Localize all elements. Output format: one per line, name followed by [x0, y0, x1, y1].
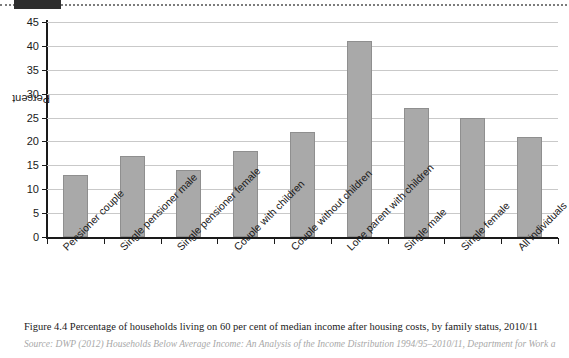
gridline — [47, 22, 558, 23]
x-tick-mark — [274, 238, 275, 244]
x-tick-mark — [47, 238, 48, 244]
y-tick-mark — [42, 70, 47, 71]
figure-caption: Figure 4.4 Percentage of households livi… — [24, 320, 559, 333]
x-tick-mark — [388, 238, 389, 244]
gridline — [47, 46, 558, 47]
redaction-block — [14, 0, 61, 9]
y-tick-mark — [42, 141, 47, 142]
bar — [347, 41, 372, 237]
y-tick-mark — [42, 22, 47, 23]
x-tick-mark — [444, 238, 445, 244]
figure-source: Source: DWP (2012) Households Below Aver… — [24, 338, 559, 350]
x-tick-mark — [331, 238, 332, 244]
page-top-rule — [0, 4, 567, 6]
y-tick-mark — [42, 165, 47, 166]
y-tick-label: 25 — [27, 112, 39, 123]
y-tick-mark — [42, 118, 47, 119]
x-tick-mark — [104, 238, 105, 244]
y-tick-mark — [42, 46, 47, 47]
y-tick-mark — [42, 189, 47, 190]
bar — [460, 118, 485, 237]
y-tick-label: 45 — [27, 17, 39, 28]
y-tick-label: 15 — [27, 160, 39, 171]
y-tick-mark — [42, 213, 47, 214]
x-axis-labels: Pensioner coupleSingle pensioner maleSin… — [0, 245, 567, 315]
gridline — [47, 70, 558, 71]
x-tick-mark — [161, 238, 162, 244]
y-tick-mark — [42, 94, 47, 95]
y-tick-label: 5 — [33, 208, 39, 219]
y-tick-label: 35 — [27, 64, 39, 75]
x-tick-mark — [558, 238, 559, 244]
y-tick-label: 10 — [27, 184, 39, 195]
bar-chart: Percent 051015202530354045 — [0, 10, 567, 245]
x-tick-mark — [217, 238, 218, 244]
y-tick-label: 20 — [27, 136, 39, 147]
x-tick-mark — [501, 238, 502, 244]
y-tick-label: 40 — [27, 40, 39, 51]
plot-area: 051015202530354045 — [47, 22, 558, 237]
figure-caption-block: Figure 4.4 Percentage of households livi… — [24, 320, 559, 350]
gridline — [47, 94, 558, 95]
y-tick-label: 0 — [33, 232, 39, 243]
y-tick-label: 30 — [27, 88, 39, 99]
